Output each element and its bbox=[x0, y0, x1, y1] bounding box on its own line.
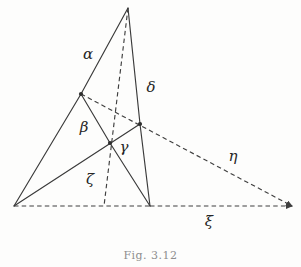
greek-labels-group: αδβγζηξ bbox=[79, 45, 238, 230]
segment-delta-lower bbox=[140, 124, 150, 206]
label-eta: η bbox=[229, 147, 238, 165]
segment-left-cevian bbox=[14, 124, 140, 206]
central-node bbox=[108, 141, 112, 145]
figure-caption: Fig. 3.12 bbox=[0, 249, 301, 262]
geometry-diagram: αδβγζηξ bbox=[0, 0, 301, 267]
label-gamma: γ bbox=[120, 138, 129, 156]
segment-alpha-lower bbox=[14, 94, 81, 206]
solid-edges-group bbox=[14, 8, 150, 206]
vertex-nodes-group bbox=[79, 92, 142, 145]
node-on-delta-side bbox=[138, 122, 142, 126]
label-alpha: α bbox=[83, 45, 93, 63]
segment-zeta-median bbox=[104, 8, 128, 206]
label-zeta: ζ bbox=[86, 170, 95, 188]
segment-eta bbox=[81, 94, 292, 206]
label-delta: δ bbox=[146, 78, 155, 96]
label-xi: ξ bbox=[205, 212, 214, 230]
segment-delta bbox=[128, 8, 140, 124]
node-on-alpha-side bbox=[79, 92, 83, 96]
figure-container: αδβγζηξ Fig. 3.12 bbox=[0, 0, 301, 267]
dashed-edges-group bbox=[14, 8, 292, 206]
label-beta: β bbox=[79, 118, 89, 136]
